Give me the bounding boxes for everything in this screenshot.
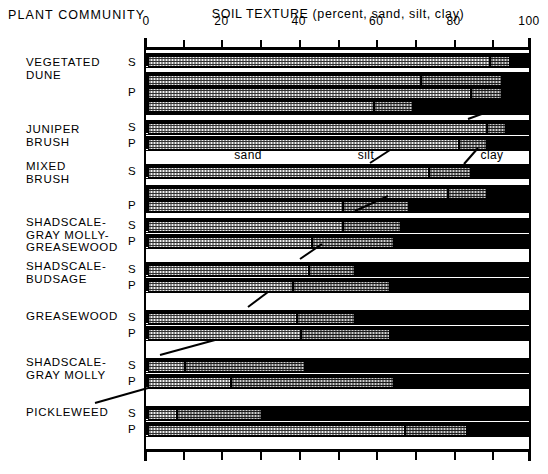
- bar-frame-bottom: [146, 276, 529, 277]
- bar-segment-clay: [510, 56, 529, 67]
- bar-segment-clay: [401, 221, 529, 232]
- axis-tick-label-20: 20: [214, 14, 228, 28]
- table-row: [146, 122, 529, 135]
- bar-segment-clay: [394, 237, 529, 248]
- axis-tick-40: [299, 451, 301, 460]
- horizon-label-p-4: P: [128, 279, 136, 291]
- bar-frame-bottom: [146, 340, 529, 341]
- axis-tick-50: [338, 40, 340, 49]
- group-label-5: GREASEWOOD: [26, 310, 118, 323]
- bar-segment-silt: [177, 409, 262, 420]
- bar-frame-bottom: [146, 212, 529, 213]
- group-label-2: MIXED BRUSH: [26, 160, 70, 185]
- table-row: [146, 264, 529, 277]
- bar-segment-silt: [301, 329, 390, 340]
- bar-frame-bottom: [146, 388, 529, 389]
- bar-segment-silt: [312, 237, 393, 248]
- bar-segment-clay: [305, 361, 529, 372]
- axis-endcap-right: [528, 449, 531, 461]
- table-row: [146, 166, 529, 179]
- table-row: [146, 236, 529, 249]
- axis-tick-30: [260, 451, 262, 460]
- table-row: [146, 360, 529, 373]
- bar-segment-sand: [148, 313, 297, 324]
- plot-area: [144, 50, 531, 449]
- bar-segment-sand: [148, 167, 429, 178]
- horizon-label-p-2: P: [128, 199, 136, 211]
- legend-label-sand: sand: [234, 148, 262, 162]
- horizon-label-s-4: S: [128, 263, 136, 275]
- horizon-label-s-0: S: [128, 56, 136, 68]
- table-row: [146, 187, 529, 200]
- axis-tick-50: [338, 451, 340, 460]
- bar-segment-sand: [148, 221, 343, 232]
- horizon-label-p-6: P: [128, 375, 136, 387]
- axis-tick-label-0: 0: [142, 14, 149, 28]
- bar-segment-silt: [374, 101, 413, 112]
- bar-segment-silt: [405, 425, 467, 436]
- bar-segment-sand: [148, 188, 448, 199]
- bar-frame-bottom: [146, 248, 529, 249]
- table-row: [146, 328, 529, 341]
- chart-title: SOIL TEXTURE (percent, sand, silt, clay): [144, 7, 532, 21]
- axis-tick-label-80: 80: [446, 14, 460, 28]
- bar-segment-sand: [148, 123, 487, 134]
- axis-top: 020406080100: [144, 38, 531, 50]
- table-row: [146, 408, 529, 421]
- bar-segment-silt: [490, 56, 509, 67]
- bar-segment-clay: [413, 101, 529, 112]
- bar-segment-clay: [467, 425, 529, 436]
- bar-segment-clay: [262, 409, 529, 420]
- bar-segment-silt: [421, 75, 502, 86]
- horizon-label-s-7: S: [128, 407, 136, 419]
- axis-tick-40: [299, 40, 301, 49]
- axis-tick-10: [183, 40, 185, 49]
- bar-segment-silt: [471, 88, 502, 99]
- bar-segment-clay: [409, 201, 529, 212]
- legend-divider-icon: [462, 146, 482, 166]
- axis-tick-label-100: 100: [518, 14, 540, 28]
- horizon-label-s-3: S: [128, 219, 136, 231]
- bar-segment-clay: [394, 377, 529, 388]
- table-row: [146, 200, 529, 213]
- bar-frame-bottom: [146, 178, 529, 179]
- axis-tick-70: [415, 40, 417, 49]
- group-label-7: PICKLEWEED: [26, 406, 108, 419]
- axis-tick-90: [492, 451, 494, 460]
- group-label-0: VEGETATED DUNE: [26, 56, 100, 81]
- bar-segment-sand: [148, 409, 177, 420]
- group-label-1: JUNIPER BRUSH: [26, 123, 80, 148]
- bar-segment-clay: [487, 188, 529, 199]
- bar-segment-silt: [343, 221, 401, 232]
- legend-label-silt: silt: [358, 148, 374, 162]
- bar-segment-sand: [148, 88, 471, 99]
- bar-segment-clay: [390, 281, 529, 292]
- axis-tick-60: [376, 40, 378, 49]
- axis-tick-label-60: 60: [369, 14, 383, 28]
- horizon-label-p-5: P: [128, 327, 136, 339]
- bar-segment-sand: [148, 201, 343, 212]
- table-row: [146, 74, 529, 87]
- bar-frame-bottom: [146, 372, 529, 373]
- bar-segment-clay: [502, 88, 529, 99]
- bar-segment-clay: [506, 123, 529, 134]
- bar-frame-bottom: [146, 292, 529, 293]
- bar-frame-bottom: [146, 67, 529, 68]
- table-row: [146, 55, 529, 68]
- table-row: [146, 87, 529, 100]
- bar-segment-sand: [148, 237, 312, 248]
- horizon-label-s-2: S: [128, 165, 136, 177]
- bar-frame-bottom: [146, 436, 529, 437]
- axis-bottom: [144, 449, 531, 461]
- table-row: [146, 220, 529, 233]
- horizon-label-p-3: P: [128, 235, 136, 247]
- bar-segment-sand: [148, 361, 185, 372]
- bar-segment-silt: [185, 361, 305, 372]
- horizon-label-s-5: S: [128, 311, 136, 323]
- axis-tick-10: [183, 451, 185, 460]
- bar-segment-clay: [355, 313, 529, 324]
- horizon-label-s-1: S: [128, 121, 136, 133]
- table-row: [146, 312, 529, 325]
- axis-tick-30: [260, 40, 262, 49]
- axis-tick-70: [415, 451, 417, 460]
